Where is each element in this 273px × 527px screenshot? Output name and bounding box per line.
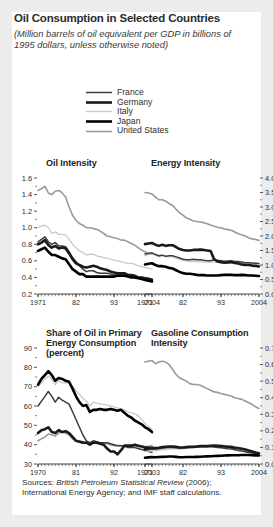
x-tick-label: 2004 [251,468,267,477]
y-tick-label: 0.4 [265,393,273,402]
y-tick-label: 1.4 [22,190,32,199]
figure-root: Oil Consumption in Selected Countries (M… [0,0,273,527]
x-tick-label: 1971 [137,298,153,307]
y-tick-label: 3.5 [265,188,273,197]
legend-item-label: United States [117,126,169,136]
x-tick-label: 93 [110,298,118,307]
x-tick-label: 93 [217,468,225,477]
x-tick-label: 82 [72,298,80,307]
y-tick-label: 0.6 [265,360,273,369]
x-tick-label: 92 [110,468,118,477]
chart-title-oil-intensity: Oil Intensity [46,158,156,168]
y-tick-label: 0.3 [265,410,273,419]
x-tick-label: 2004 [251,298,267,307]
x-tick-label: 81 [72,468,80,477]
legend-swatch-line [86,98,112,107]
x-tick-label: 1971 [30,298,46,307]
x-tick-label: 82 [179,298,187,307]
x-tick-label: 1970 [30,468,46,477]
y-tick-label: 1.0 [265,261,273,270]
figure-title: Oil Consumption in Selected Countries [14,12,236,25]
y-tick-label: 0.1 [265,443,273,452]
y-tick-label: 0.7 [265,344,273,353]
y-tick-label: 0.2 [265,426,273,435]
sources-publication: British Petroleum Statistical Review [56,478,183,487]
x-tick-label: 93 [217,298,225,307]
chart-svg-energy-intensity: 0.00.51.01.52.02.53.03.54.0197182932004 [143,152,261,298]
y-tick-label: 0.5 [265,275,273,284]
chart-energy-intensity: 0.00.51.01.52.02.53.03.54.0197182932004E… [143,152,261,298]
figure-subtitle: (Million barrels of oil equivalent per G… [14,29,238,51]
sources-prefix: Sources: [22,478,56,487]
y-tick-label: 1.5 [265,246,273,255]
y-tick-label: 0.8 [22,240,32,249]
y-tick-label: 2.0 [265,232,273,241]
y-tick-label: 0.4 [22,273,32,282]
y-tick-label: 1.6 [22,174,32,183]
legend-item: United States [86,126,169,136]
y-tick-label: 50 [24,421,32,430]
y-tick-label: 0.6 [22,256,32,265]
y-tick-label: 1.0 [22,223,32,232]
y-tick-label: 3.0 [265,203,273,212]
chart-title-share-of-oil: Share of Oil in Primary Energy Consumpti… [46,328,156,359]
y-tick-label: 1.2 [22,207,32,216]
chart-title-gasoline-intensity: Gasoline Consumption Intensity [151,328,255,348]
x-tick-label: 1971 [137,468,153,477]
y-tick-label: 4.0 [265,174,273,183]
legend-swatch-line [86,107,112,116]
sources-note: Sources: British Petroleum Statistical R… [22,478,254,498]
legend-swatch-line [86,117,112,126]
series-line-united-states [145,360,259,408]
y-tick-label: 90 [24,344,32,353]
chart-title-energy-intensity: Energy Intensity [151,158,255,168]
series-line-japan [145,455,259,458]
y-tick-label: 70 [24,382,32,391]
x-tick-label: 82 [179,468,187,477]
legend-swatch-line [86,127,112,136]
chart-gasoline-intensity: 0.00.10.20.30.40.50.60.7197182932004Gaso… [143,322,261,468]
chart-oil-intensity: 0.20.40.60.81.01.21.41.6197182932004Oil … [16,152,134,298]
chart-share-of-oil: 30405060708090197081922003Share of Oil i… [16,322,134,468]
y-tick-label: 60 [24,402,32,411]
y-tick-label: 80 [24,363,32,372]
legend: FranceGermanyItalyJapanUnited States [86,88,169,136]
y-tick-label: 40 [24,440,32,449]
series-line-united-states [145,193,259,241]
y-tick-label: 2.5 [265,217,273,226]
y-tick-label: 0.5 [265,377,273,386]
chart-svg-oil-intensity: 0.20.40.60.81.01.21.41.6197182932004 [16,152,134,298]
legend-swatch-line [86,88,112,97]
